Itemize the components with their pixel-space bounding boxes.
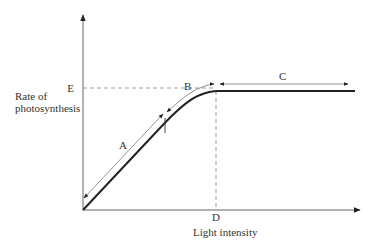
- label-b: B: [184, 80, 191, 92]
- x-axis-label: Light intensity: [193, 226, 258, 238]
- y-axis-label-line1: Rate of: [15, 90, 47, 102]
- photosynthesis-diagram: E Rate of photosynthesis A B C D Light i…: [0, 0, 369, 243]
- y-axis-label-line2: photosynthesis: [15, 102, 80, 114]
- label-c: C: [279, 70, 286, 82]
- label-e: E: [67, 82, 74, 94]
- label-d: D: [212, 211, 220, 223]
- region-a-arrow: [84, 114, 163, 198]
- label-a: A: [119, 139, 127, 151]
